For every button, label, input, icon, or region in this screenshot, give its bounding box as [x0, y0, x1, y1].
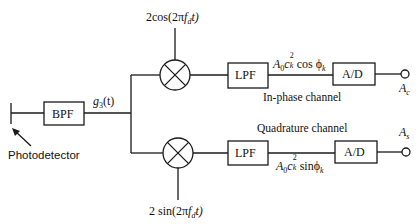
lpf-i-label: LPF — [235, 69, 256, 81]
bpf-label: BPF — [52, 108, 73, 120]
in-phase-signal-label: A0c2k cos ϕk — [273, 57, 326, 73]
in-phase-channel-label: In-phase channel — [263, 92, 341, 104]
cos-reference-label: 2cos(2πfdt) — [146, 11, 199, 23]
ad-q-label: A/D — [344, 146, 365, 158]
output-q-terminal — [402, 148, 410, 156]
photodetector-label: Photodetector — [8, 150, 80, 162]
quadrature-signal-label: A0c2k sinϕk — [276, 159, 324, 175]
g3-label: g3(t) — [93, 95, 114, 107]
output-as-label: As — [399, 126, 409, 138]
quadrature-channel-label: Quadrature channel — [257, 123, 347, 135]
sin-reference-label: 2 sin(2πfdt) — [149, 205, 203, 217]
output-ac-label: Ac — [399, 82, 410, 94]
iq-demodulator-diagram: BPF LPF LPF A/D A/D g3(t) 2cos(2πfdt) 2 … — [0, 0, 419, 224]
ad-i-label: A/D — [342, 68, 363, 80]
output-i-terminal — [401, 70, 409, 78]
lpf-q-label: LPF — [235, 147, 256, 159]
